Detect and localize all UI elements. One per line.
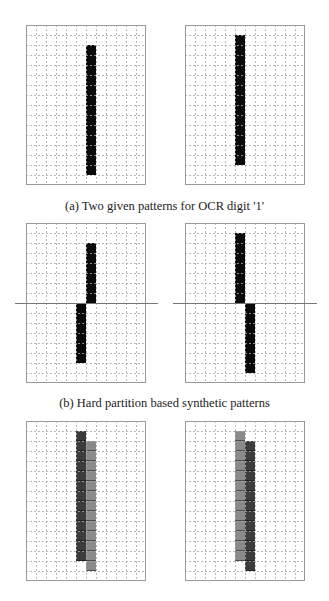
partition-line bbox=[173, 303, 317, 304]
pattern-panel-a2 bbox=[185, 25, 305, 185]
grid-lines bbox=[26, 421, 146, 581]
pattern-panel-c1 bbox=[26, 421, 146, 581]
grid-lines bbox=[26, 25, 146, 185]
pattern-panel-c2 bbox=[185, 421, 305, 581]
partition-line bbox=[15, 303, 158, 304]
caption-b: (b) Hard partition based synthetic patte… bbox=[0, 396, 329, 411]
grid-lines bbox=[185, 25, 305, 185]
caption-a: (a) Two given patterns for OCR digit '1' bbox=[0, 199, 329, 214]
pattern-panel-a1 bbox=[26, 25, 146, 185]
grid-lines bbox=[185, 421, 305, 581]
